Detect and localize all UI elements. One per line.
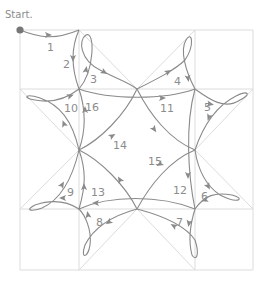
step-label-8: 8 [96, 216, 103, 229]
start-label: Start. [5, 9, 33, 20]
stitch-segment-9 [30, 150, 79, 210]
step-label-6: 6 [201, 190, 208, 203]
stitch-segment-14 [79, 89, 195, 150]
step-label-14: 14 [113, 139, 127, 152]
step-label-1: 1 [47, 41, 54, 54]
step-label-15: 15 [148, 155, 162, 168]
step-label-3: 3 [90, 73, 97, 86]
arrow-icon [60, 119, 68, 128]
stitch-segment-10 [27, 89, 79, 150]
stitch-segment-15 [79, 150, 195, 209]
stitch-segment-13 [79, 150, 195, 209]
start-dot [16, 26, 23, 33]
stitch-segment-5 [195, 89, 247, 150]
grid-lines [20, 30, 253, 270]
stitch-segment-16 [79, 89, 84, 150]
arrow-icon [81, 183, 87, 190]
arrow-icon [59, 195, 66, 201]
stitch-segment-7 [137, 209, 197, 258]
step-label-13: 13 [91, 186, 105, 199]
stitch-path [20, 30, 247, 258]
step-label-4: 4 [174, 75, 181, 88]
quilt-stitch-path-diagram: 12345678910111213141516 Start. [0, 0, 268, 286]
arrow-icon [150, 125, 159, 134]
grid-line [20, 150, 79, 209]
step-label-10: 10 [64, 102, 78, 115]
arrow-icon [100, 68, 109, 77]
stitch-segment-4 [137, 37, 195, 89]
step-label-9: 9 [67, 186, 74, 199]
step-label-16: 16 [85, 101, 99, 114]
step-label-7: 7 [176, 216, 183, 229]
step-label-5: 5 [204, 101, 211, 114]
arrow-icon [164, 67, 173, 76]
arrow-icon [58, 180, 67, 189]
step-label-2: 2 [63, 58, 70, 71]
step-label-11: 11 [160, 102, 174, 115]
grid-line [79, 30, 137, 89]
step-label-12: 12 [173, 184, 187, 197]
